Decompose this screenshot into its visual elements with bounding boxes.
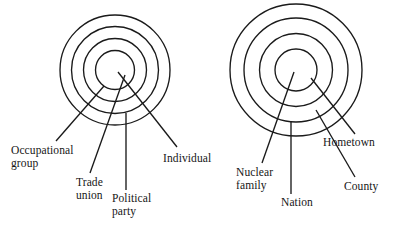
label-political-party: Political party [112, 192, 151, 217]
diagram-canvas [0, 0, 415, 238]
label-trade-union: Trade union [76, 176, 103, 201]
right-ring-2-hometown [260, 34, 333, 107]
left-ring-outer-occupational-group [60, 15, 170, 125]
label-individual: Individual [163, 152, 211, 165]
left-ring-2-political-party [84, 39, 147, 102]
label-county: County [344, 180, 378, 193]
left-ring-inner-individual [96, 51, 135, 90]
right-leader-hometown [311, 78, 355, 134]
left-leader-trade-union [90, 75, 125, 173]
label-nation: Nation [281, 196, 313, 209]
concentric-circles-figure: Occupational group Trade union Political… [0, 0, 415, 238]
left-ring-3-trade-union [72, 27, 159, 114]
right-ring-inner-nuclear-family [275, 49, 317, 91]
label-occupational-group: Occupational group [11, 144, 74, 169]
left-diagram [56, 15, 177, 190]
right-ring-outer-nation [230, 4, 362, 136]
label-nuclear-family: Nuclear family [236, 166, 273, 191]
left-leader-occupational-group [56, 86, 104, 141]
label-hometown: Hometown [323, 136, 375, 149]
right-leader-nuclear-family [262, 72, 294, 163]
